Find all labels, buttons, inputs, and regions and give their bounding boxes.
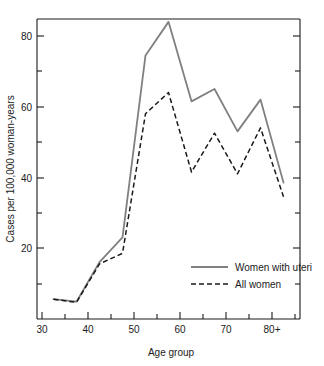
y-axis-ticks bbox=[37, 36, 300, 284]
plot-frame bbox=[37, 19, 300, 319]
x-tick-label: 40 bbox=[82, 324, 94, 335]
line-chart: 80 60 40 20 30 40 50 60 70 80+ bbox=[0, 0, 324, 366]
legend-label-all-women: All women bbox=[235, 279, 281, 290]
x-tick-label: 80+ bbox=[264, 324, 281, 335]
x-tick-label: 60 bbox=[174, 324, 186, 335]
y-axis-tick-labels: 80 60 40 20 bbox=[21, 31, 33, 254]
x-axis-ticks bbox=[42, 312, 295, 319]
x-axis-tick-labels: 30 40 50 60 70 80+ bbox=[36, 324, 280, 335]
x-axis-title: Age group bbox=[148, 347, 195, 358]
y-axis-title: Cases per 100,000 woman-years bbox=[5, 95, 16, 242]
legend-label-women-with-uteri: Women with uteri bbox=[235, 262, 312, 273]
x-tick-label: 50 bbox=[128, 324, 140, 335]
y-tick-label: 80 bbox=[21, 31, 33, 42]
x-tick-label: 30 bbox=[36, 324, 48, 335]
y-tick-label: 20 bbox=[21, 243, 33, 254]
chart-container: 80 60 40 20 30 40 50 60 70 80+ bbox=[0, 0, 324, 366]
x-tick-label: 70 bbox=[220, 324, 232, 335]
chart-legend: Women with uteri All women bbox=[191, 262, 312, 290]
series-line-women-with-uteri bbox=[54, 22, 284, 302]
y-tick-label: 60 bbox=[21, 102, 33, 113]
y-tick-label: 40 bbox=[21, 173, 33, 184]
series-lines bbox=[54, 22, 284, 303]
